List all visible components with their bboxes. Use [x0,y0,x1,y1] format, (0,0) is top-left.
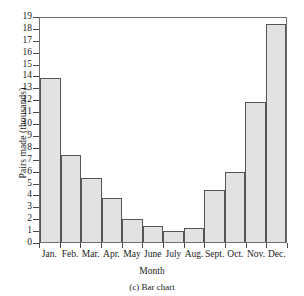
y-axis-tick [33,184,39,185]
x-axis-tick-label: May [122,249,143,259]
bar [225,172,246,242]
bar [184,228,205,242]
bar [204,190,225,242]
y-axis-tick [33,148,39,149]
bar-slot [184,18,205,242]
bar [245,102,266,242]
bar-slot [81,18,102,242]
y-axis-tick-label: 0 [12,238,32,248]
y-axis-tick-label: 15 [12,60,32,70]
x-axis-tick [60,243,61,248]
y-axis-tick [33,231,39,232]
y-axis-tick [33,112,39,113]
y-axis-tick-label: 9 [12,131,32,141]
y-axis-tick-label: 10 [12,119,32,129]
x-axis-tick-label: June [142,249,163,259]
x-axis-tick [225,243,226,248]
bar-slot [245,18,266,242]
bar [102,198,123,242]
x-axis-tick [39,243,40,248]
bar-slot [204,18,225,242]
x-axis-tick-label: July [163,249,184,259]
y-axis-tick [33,88,39,89]
y-axis-tick-label: 14 [12,71,32,81]
y-axis-tick-label: 8 [12,143,32,153]
y-axis-tick-label: 7 [12,155,32,165]
y-axis-tick [33,172,39,173]
x-axis-tick [246,243,247,248]
x-axis-tick-label: Dec. [266,249,287,259]
y-axis-tick-label: 16 [12,48,32,58]
x-axis-tick-label: Oct. [225,249,246,259]
bar-slot [225,18,246,242]
bar-slot [40,18,61,242]
y-axis-tick [33,76,39,77]
bar-series [40,18,286,242]
x-axis-tick [204,243,205,248]
y-axis-tick [33,124,39,125]
x-axis-tick [163,243,164,248]
x-axis-tick-label: Nov. [246,249,267,259]
x-axis-tick-label: Feb. [60,249,81,259]
bar-slot [61,18,82,242]
bar-slot [143,18,164,242]
y-axis-tick-label: 5 [12,179,32,189]
x-axis-tick-label: Mar. [80,249,101,259]
x-axis-tick [80,243,81,248]
y-axis-tick [33,41,39,42]
y-axis-tick [33,29,39,30]
y-axis-tick-label: 4 [12,190,32,200]
y-axis-tick-label: 2 [12,214,32,224]
plot-area [39,17,287,243]
bar [122,219,143,242]
x-axis-tick [266,243,267,248]
x-axis-tick-label: Apr. [101,249,122,259]
y-axis-tick-label: 18 [12,24,32,34]
bar [266,24,287,242]
x-axis-tick [122,243,123,248]
bar [40,78,61,242]
y-axis-tick [33,53,39,54]
y-axis-tick-label: 11 [12,107,32,117]
y-axis-tick [33,195,39,196]
y-axis-tick-label: 12 [12,95,32,105]
x-axis-tick-label: Sept. [204,249,225,259]
bar [163,231,184,242]
y-axis-tick [33,136,39,137]
figure-caption: (c) Bar chart [0,282,304,292]
y-axis-tick [33,17,39,18]
y-axis-tick-label: 6 [12,167,32,177]
x-axis-tick-label: Jan. [39,249,60,259]
x-axis-tick-label: Aug. [184,249,205,259]
x-axis-tick [184,243,185,248]
x-axis-tick [287,243,288,248]
bar-slot [163,18,184,242]
y-axis-tick-label: 3 [12,202,32,212]
bar-chart-figure: Pairs made (thousands) 19181716151413121… [0,0,304,296]
y-axis-tick-label: 1 [12,226,32,236]
x-axis-tick [101,243,102,248]
x-axis-tick [142,243,143,248]
bar-slot [266,18,287,242]
y-axis-tick-label: 13 [12,83,32,93]
y-axis-tick [33,100,39,101]
bar [81,178,102,242]
y-axis-tick-label: 17 [12,36,32,46]
y-axis-tick [33,160,39,161]
bar-slot [102,18,123,242]
x-axis-tick-labels: Jan.Feb.Mar.Apr.MayJuneJulyAug.Sept.Oct.… [39,249,287,259]
y-axis-tick [33,219,39,220]
bar [61,155,82,242]
bar-slot [122,18,143,242]
y-axis-tick-label: 19 [12,12,32,22]
bar [143,226,164,243]
y-axis-tick [33,207,39,208]
x-axis-title: Month [0,266,304,276]
y-axis-tick [33,65,39,66]
